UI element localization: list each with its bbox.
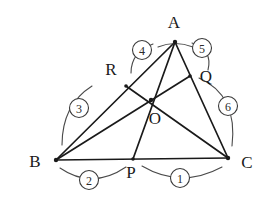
number-badge-6: 6 [219, 97, 238, 116]
vertex-dot-Q [188, 74, 192, 78]
point-label-Q: Q [200, 67, 212, 86]
point-label-C: C [241, 153, 252, 172]
point-label-P: P [126, 163, 135, 182]
point-label-O: O [149, 109, 161, 128]
segment-side-BC [56, 158, 228, 160]
segment-cevian-CR [126, 86, 228, 158]
vertex-dot-P [131, 157, 135, 161]
point-label-B: B [29, 152, 40, 171]
number-badge-1-label: 1 [177, 172, 183, 186]
vertex-dot-O [149, 98, 153, 102]
point-label-A: A [168, 13, 181, 32]
number-badge-1: 1 [171, 169, 190, 188]
number-badge-3: 3 [70, 99, 89, 118]
vertex-dot-A [173, 40, 177, 44]
vertex-dot-R [124, 84, 128, 88]
vertex-dot-B [54, 158, 58, 162]
number-badge-4: 4 [133, 41, 152, 60]
geometry-diagram: 1 2 3 4 5 6 A B C O P Q R [0, 0, 263, 211]
number-badge-5-label: 5 [199, 42, 205, 56]
vertex-dot-C [226, 156, 230, 160]
number-badge-6-label: 6 [225, 100, 231, 114]
number-badge-2-label: 2 [86, 174, 92, 188]
number-badge-3-label: 3 [76, 102, 82, 116]
number-badge-2: 2 [80, 171, 99, 190]
number-badge-4-label: 4 [139, 44, 145, 58]
number-badge-5: 5 [193, 39, 212, 58]
point-label-R: R [105, 60, 117, 79]
